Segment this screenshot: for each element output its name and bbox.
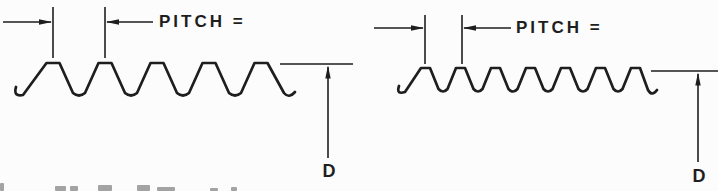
cropped-caption-fragment [157,187,175,191]
coarse-thread-pitch-arrowhead [106,19,119,24]
fine-thread-diameter-arrowhead [695,73,700,86]
cropped-caption-fragment [0,183,4,191]
diameter-label-coarse: D [323,162,336,180]
coarse-thread-profile [15,63,295,96]
cropped-caption-fragment [98,185,112,191]
thread-pitch-figure: PITCH = PITCH = D D [0,0,718,191]
diagram-canvas [0,0,718,191]
fine-thread-pitch-arrowhead [411,25,424,30]
cropped-caption-fragment [137,185,150,191]
cropped-caption-fragment [70,186,78,191]
coarse-thread-diameter-arrowhead [325,66,330,79]
cropped-caption-fragment [231,187,237,191]
pitch-label-coarse: PITCH = [159,13,246,30]
fine-thread-profile [398,68,657,94]
cropped-caption-fragment [55,186,66,191]
diameter-label-fine: D [693,167,706,185]
pitch-label-fine: PITCH = [516,19,603,36]
cropped-caption-fragment [210,188,218,191]
fine-thread-pitch-arrowhead [463,25,476,30]
coarse-thread-pitch-arrowhead [39,19,52,24]
